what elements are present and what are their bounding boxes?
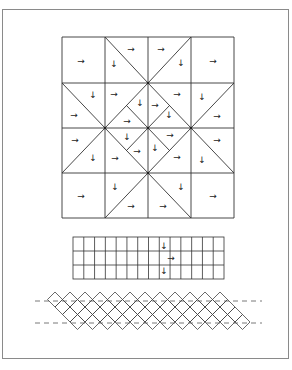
lattice-diamond xyxy=(145,315,160,330)
diagonal-line xyxy=(191,83,234,128)
arrow-right-icon: → xyxy=(133,146,141,156)
large-grid-arrows: →→↓→↓→↓→→↓→→→↓↓→→↓↓→→→↓→→↓→↓→→↓→ xyxy=(70,44,221,211)
band-dashed-lines xyxy=(35,301,262,323)
arrow-right-icon: → xyxy=(213,111,221,121)
arrow-right-icon: → xyxy=(111,153,119,163)
arrow-right-icon: → xyxy=(167,253,175,263)
arrow-right-icon: → xyxy=(157,44,165,54)
arrow-right-icon: → xyxy=(173,89,181,99)
arrow-down-icon: ↓ xyxy=(198,155,206,165)
lattice-diamond xyxy=(63,292,78,307)
arrow-down-icon: ↓ xyxy=(165,110,173,120)
lattice-diamond xyxy=(115,300,130,315)
arrow-down-icon: ↓ xyxy=(123,132,131,142)
lattice-diamond xyxy=(123,292,138,307)
lattice-diamond xyxy=(213,307,228,322)
lattice-diamond xyxy=(168,307,183,322)
lattice-diamond xyxy=(175,300,190,315)
arrow-right-icon: → xyxy=(71,135,79,145)
lattice-diamond xyxy=(235,315,250,330)
lattice-diamond xyxy=(228,307,243,322)
pattern-diagram: →→↓→↓→↓→→↓→→→↓↓→→↓↓→→→↓→→↓→↓→→↓→ ↓→↓ xyxy=(0,0,292,370)
arrow-right-icon: → xyxy=(159,201,167,211)
lattice-diamond xyxy=(138,307,153,322)
lattice-diamond xyxy=(78,292,93,307)
arrow-right-icon: → xyxy=(127,201,135,211)
lattice-diamond xyxy=(93,307,108,322)
arrow-down-icon: ↓ xyxy=(177,58,185,68)
diamond-lattice-band xyxy=(48,292,251,330)
small-square-grid xyxy=(73,237,224,279)
lattice-diamond xyxy=(220,300,235,315)
lattice-diamond xyxy=(63,307,78,322)
arrow-down-icon: ↓ xyxy=(198,92,206,102)
arrow-right-icon: → xyxy=(209,191,217,201)
arrow-right-icon: → xyxy=(209,56,217,66)
lattice-diamond xyxy=(175,315,190,330)
arrow-down-icon: ↓ xyxy=(111,182,119,192)
lattice-diamond xyxy=(85,300,100,315)
lattice-diamond xyxy=(70,315,85,330)
lattice-diamond xyxy=(48,292,63,307)
lattice-diamond xyxy=(138,292,153,307)
arrow-down-icon: ↓ xyxy=(151,143,159,153)
arrow-right-icon: → xyxy=(123,116,131,126)
vertex-dot xyxy=(147,172,150,175)
arrow-down-icon: ↓ xyxy=(160,241,168,251)
lattice-diamond xyxy=(220,315,235,330)
lattice-diamond xyxy=(160,315,175,330)
lattice-diamond xyxy=(108,307,123,322)
arrow-down-icon: ↓ xyxy=(89,90,97,100)
diagonal-line xyxy=(105,173,148,218)
small-grid-arrows: ↓→↓ xyxy=(160,241,175,276)
lattice-diamond xyxy=(198,307,213,322)
lattice-diamond xyxy=(55,300,70,315)
arrow-down-icon: ↓ xyxy=(136,98,144,108)
lattice-diamond xyxy=(183,292,198,307)
arrow-right-icon: → xyxy=(151,100,159,110)
arrow-down-icon: ↓ xyxy=(160,266,168,276)
lattice-diamond xyxy=(205,315,220,330)
lattice-diamond xyxy=(160,300,175,315)
arrow-right-icon: → xyxy=(166,130,174,140)
lattice-diamond xyxy=(145,300,160,315)
lattice-diamond xyxy=(70,300,85,315)
lattice-diamond xyxy=(190,315,205,330)
lattice-diamond xyxy=(115,315,130,330)
arrow-right-icon: → xyxy=(77,56,85,66)
lattice-diamond xyxy=(100,315,115,330)
lattice-diamond xyxy=(123,307,138,322)
arrow-down-icon: ↓ xyxy=(177,182,185,192)
diagonal-line xyxy=(62,128,105,173)
lattice-diamond xyxy=(190,300,205,315)
lattice-diamond xyxy=(78,307,93,322)
arrow-right-icon: → xyxy=(110,89,118,99)
lattice-diamond xyxy=(198,292,213,307)
vertex-dot xyxy=(104,127,107,130)
vertex-dot xyxy=(147,82,150,85)
arrow-right-icon: → xyxy=(127,44,135,54)
lattice-diamond xyxy=(213,292,228,307)
lattice-diamond xyxy=(205,300,220,315)
lattice-diamond xyxy=(130,300,145,315)
lattice-diamond xyxy=(183,307,198,322)
lattice-diamond xyxy=(108,292,123,307)
arrow-down-icon: ↓ xyxy=(110,59,118,69)
diagonal-line xyxy=(148,173,191,218)
arrow-right-icon: → xyxy=(77,191,85,201)
arrow-down-icon: ↓ xyxy=(89,153,97,163)
arrow-right-icon: → xyxy=(173,152,181,162)
vertex-dot xyxy=(147,127,150,130)
lattice-diamond xyxy=(168,292,183,307)
lattice-diamond xyxy=(130,315,145,330)
vertex-dot xyxy=(190,127,193,130)
large-star-grid xyxy=(62,37,234,218)
lattice-diamond xyxy=(85,315,100,330)
diagonal-line xyxy=(62,83,105,128)
lattice-diamond xyxy=(93,292,108,307)
arrow-right-icon: → xyxy=(213,135,221,145)
lattice-diamond xyxy=(100,300,115,315)
lattice-diamond xyxy=(153,292,168,307)
lattice-diamond xyxy=(153,307,168,322)
arrow-right-icon: → xyxy=(70,110,78,120)
